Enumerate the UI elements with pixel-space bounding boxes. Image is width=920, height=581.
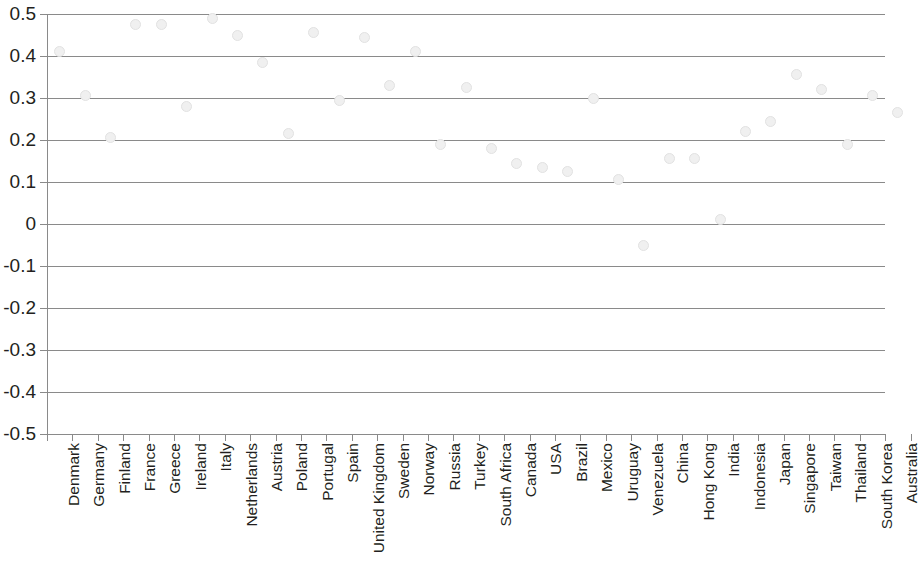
x-axis-category-label: Singapore [802,443,818,514]
x-axis-tick-mark [276,434,277,441]
data-point-marker [511,158,522,169]
x-axis-category-label: Finland [117,443,133,494]
y-axis-tick-mark [40,434,47,435]
x-axis-category-label: India [726,443,742,477]
data-point-marker [207,13,218,24]
data-point-marker [156,19,167,30]
x-axis-category-label: Portugal [320,443,336,501]
y-axis-tick-mark [40,140,47,141]
y-axis-tick-mark [40,266,47,267]
y-axis-tick-mark [40,308,47,309]
x-axis-category-label: Norway [421,443,437,496]
y-axis-tick-label: 0.3 [0,88,36,107]
x-axis-category-label: Russia [447,443,463,490]
data-point-marker [715,214,726,225]
data-point-marker [334,95,345,106]
x-axis-category-label: Sweden [396,443,412,499]
x-axis-category-label: Japan [777,443,793,485]
x-axis-category-label: Austria [269,443,285,491]
data-point-marker [308,27,319,38]
x-axis-category-label: United Kingdom [371,443,387,553]
y-axis-tick-label: 0.1 [0,172,36,191]
y-axis-tick-label: 0.5 [0,4,36,23]
x-axis-category-label: Taiwan [828,443,844,491]
x-axis-tick-mark [860,434,861,441]
x-axis-tick-mark [530,434,531,441]
gridline [47,182,885,183]
y-axis-tick-mark [40,182,47,183]
x-axis-tick-mark [758,434,759,441]
y-axis-tick-label: 0.4 [0,46,36,65]
x-axis-category-label: Germany [91,443,107,507]
x-axis-category-label: Venezuela [650,443,666,515]
data-point-marker [613,174,624,185]
data-point-marker [384,80,395,91]
x-axis-tick-mark [403,434,404,441]
x-axis-tick-mark [326,434,327,441]
data-point-marker [842,139,853,150]
data-point-marker [816,84,827,95]
data-point-marker [892,107,903,118]
x-axis-tick-mark [479,434,480,441]
data-point-marker [181,101,192,112]
data-point-marker [562,166,573,177]
y-axis-tick-label: 0.2 [0,130,36,149]
x-axis-category-label: Indonesia [752,443,768,510]
y-axis-tick-mark [40,392,47,393]
x-axis-tick-mark [657,434,658,441]
y-axis-tick-mark [40,98,47,99]
x-axis-tick-mark [555,434,556,441]
gridline [47,308,885,309]
gridline [47,56,885,57]
data-point-marker [80,90,91,101]
data-point-marker [461,82,472,93]
data-point-marker [689,153,700,164]
x-axis-tick-mark [580,434,581,441]
data-point-marker [486,143,497,154]
x-axis-tick-mark [682,434,683,441]
x-axis-tick-mark [149,434,150,441]
x-axis-tick-mark [809,434,810,441]
data-point-marker [867,90,878,101]
data-point-marker [130,19,141,30]
x-axis-tick-mark [707,434,708,441]
x-axis-tick-mark [784,434,785,441]
x-axis-category-label: Uruguay [625,443,641,502]
x-axis-category-label: Australia [904,443,920,503]
y-axis-tick-label: 0 [0,214,36,233]
y-axis-tick-mark [40,224,47,225]
gridline [47,350,885,351]
gridline [47,140,885,141]
data-point-marker [791,69,802,80]
x-axis-category-label: Spain [345,443,361,483]
x-axis-tick-mark [72,434,73,441]
gridline [47,98,885,99]
data-point-marker [283,128,294,139]
y-axis-tick-mark [40,14,47,15]
gridline [47,224,885,225]
x-axis-category-label: Hong Kong [701,443,717,521]
x-axis-category-label: Poland [294,443,310,491]
y-axis-tick-mark [40,350,47,351]
x-axis-category-label: Thailand [853,443,869,502]
gridline [47,14,885,15]
x-axis-category-label: Brazil [574,443,590,482]
x-axis-tick-mark [885,434,886,441]
x-axis-category-label: Turkey [472,443,488,490]
x-axis-category-label: Mexico [599,443,615,492]
x-axis-tick-mark [504,434,505,441]
x-axis-category-label: Denmark [66,443,82,506]
x-axis-category-label: USA [548,443,564,475]
x-axis-category-label: Greece [167,443,183,494]
x-axis-tick-mark [428,434,429,441]
data-point-marker [435,139,446,150]
x-axis-tick-mark [199,434,200,441]
x-axis-category-label: Italy [218,443,234,471]
data-point-marker [638,240,649,251]
x-axis-tick-mark [453,434,454,441]
x-axis-category-label: Netherlands [244,443,260,527]
x-axis-tick-mark [250,434,251,441]
y-axis-tick-label: -0.3 [0,340,36,359]
x-axis-category-label: France [142,443,158,491]
